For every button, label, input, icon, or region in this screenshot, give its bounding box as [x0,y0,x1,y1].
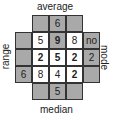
inner-cell: 8 [32,66,49,83]
inner-cell: 2 [66,49,83,66]
inner-cell: 2 [66,66,83,83]
median-cell [32,83,49,100]
range-cell [15,49,32,66]
average-cell [66,15,83,32]
inner-cell: 2 [32,49,49,66]
label-average: average [37,1,73,12]
average-cell [32,15,49,32]
median-cell [66,83,83,100]
range-cell [15,32,32,49]
inner-cell: 5 [32,32,49,49]
label-range: range [0,44,11,70]
mode-cell: 2 [83,49,100,66]
inner-cell: 9 [49,32,66,49]
mode-cell: no [83,32,100,49]
average-cell: 6 [49,15,66,32]
label-mode: mode [99,45,110,70]
inner-cell: 8 [66,32,83,49]
label-median: median [40,104,73,115]
mode-cell [83,66,100,83]
median-cell: 5 [49,83,66,100]
range-cell: 6 [15,66,32,83]
inner-cell: 5 [49,49,66,66]
inner-cell: 4 [49,66,66,83]
